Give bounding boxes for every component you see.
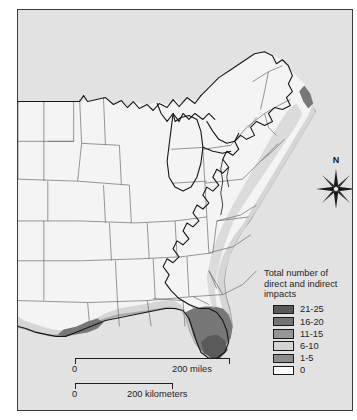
scale-miles-zero-label: 0 [72,364,77,374]
legend-item-1-5: 1-5 [273,353,353,364]
legend-title-line-3: impacts [264,289,353,300]
scale-km-zero-label: 0 [72,389,77,399]
legend-swatch-21-25 [273,305,294,314]
legend-item-21-25: 21-25 [273,304,353,315]
legend-item-16-20: 16-20 [273,316,353,327]
legend-label-0: 0 [300,365,305,375]
scale-km-max-label: 200 kilometers [127,389,187,399]
legend-label-1-5: 1-5 [300,353,313,363]
legend: Total number of direct and indirect impa… [264,268,353,377]
scale-miles-max-label: 200 miles [172,364,212,374]
scale-bar-miles: 0 200 miles [75,358,255,377]
scale-bar-kilometers: 0 200 kilometers [75,383,255,402]
legend-swatch-11-15 [273,329,294,338]
legend-swatch-1-5 [273,354,294,363]
legend-title-line-2: direct and indirect [264,279,353,290]
map-figure: NOAA, National Weather Service, and FEMA [0,0,357,420]
legend-title: Total number of direct and indirect impa… [264,268,353,300]
legend-title-line-1: Total number of [264,268,353,279]
legend-swatch-16-20 [273,317,294,326]
legend-item-6-10: 6-10 [273,340,353,351]
legend-item-0: 0 [273,365,353,376]
legend-item-11-15: 11-15 [273,328,353,339]
legend-label-21-25: 21-25 [300,304,324,314]
legend-label-6-10: 6-10 [300,341,319,351]
map-canvas[interactable]: N Total number of [17,9,353,411]
legend-entries: 21-25 16-20 11-15 6-10 1-5 [273,304,353,376]
legend-label-11-15: 11-15 [300,329,323,339]
scale-bars: 0 200 miles 0 200 kilometers [75,358,255,402]
legend-swatch-0 [273,366,294,375]
legend-label-16-20: 16-20 [300,317,324,327]
legend-swatch-6-10 [273,341,294,350]
